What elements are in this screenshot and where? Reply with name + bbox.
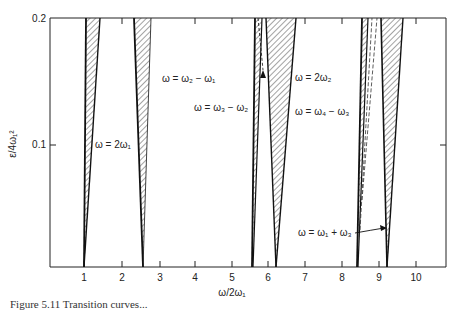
x-tick-9: 9 — [376, 272, 382, 283]
label-2w1: ω = 2ω₁ — [95, 139, 132, 150]
label-w2-minus-w1: ω = ω₂ − ω₁ — [162, 73, 216, 84]
label-2w2: ω = 2ω₂ — [295, 72, 332, 83]
x-tick-1: 1 — [81, 272, 87, 283]
x-tick-2: 2 — [119, 272, 125, 283]
figure-caption: Figure 5.11 Transition curves... — [10, 298, 147, 310]
x-tick-5: 5 — [229, 272, 235, 283]
y-tick-0.2: 0.2 — [32, 13, 46, 24]
label-w1-plus-w3: ω = ω₁ + ω₃ — [298, 227, 352, 238]
label-w3-minus-w2: ω = ω₃ − ω₂ — [194, 102, 248, 113]
x-axis-tick-labels: 1 2 3 4 5 6 7 8 9 10 — [81, 272, 422, 283]
tongue-2w2 — [260, 18, 296, 267]
y-axis-title: ε/4ω₁² — [7, 130, 18, 158]
x-tick-6: 6 — [265, 272, 271, 283]
tongue-w3-minus-w2 — [252, 18, 263, 267]
x-tick-10: 10 — [410, 272, 422, 283]
tongue-w1-plus-w3 — [381, 18, 403, 267]
x-tick-3: 3 — [157, 272, 163, 283]
label-w4-minus-w3: ω = ω₄ − ω₃ — [295, 106, 349, 117]
x-axis-title: ω/2ω₁ — [218, 287, 246, 298]
x-tick-4: 4 — [192, 272, 198, 283]
x-tick-8: 8 — [339, 272, 345, 283]
y-tick-0.1: 0.1 — [32, 139, 46, 150]
x-tick-7: 7 — [302, 272, 308, 283]
tongue-w2-minus-w1 — [134, 18, 151, 267]
